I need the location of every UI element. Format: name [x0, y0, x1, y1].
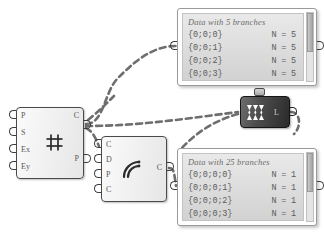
- nub-out-c[interactable]: [84, 120, 91, 129]
- panel-scrollbar-thumb[interactable]: [307, 13, 313, 52]
- panel-row: {0;0;0;1} N = 1: [188, 182, 298, 195]
- panel-five-branches[interactable]: Data with 5 branches {0;0;0} N = 5 {0;0;…: [177, 8, 317, 86]
- panel-scrollbar[interactable]: [306, 152, 314, 222]
- branch-count: N = 1: [271, 208, 298, 221]
- port-in-p2[interactable]: P: [106, 171, 110, 179]
- branch-path: {0;0;0;0}: [188, 169, 232, 182]
- panel-twentyfive-branches-title: Data with 25 branches: [188, 157, 298, 167]
- port-out-c-arc[interactable]: C: [157, 164, 162, 172]
- port-in-c1[interactable]: C: [106, 141, 111, 149]
- branch-path: {0;0;1}: [188, 42, 222, 55]
- port-out-c[interactable]: C: [74, 112, 79, 120]
- branch-count: N = 5: [271, 42, 298, 55]
- wire-c-to-top-panel: [86, 46, 176, 124]
- panel-scrollbar-thumb[interactable]: [307, 153, 313, 192]
- nub-out-p[interactable]: [84, 154, 91, 163]
- panel-row: {0;0;0} N = 5: [188, 29, 298, 42]
- component-surface-divide[interactable]: P S Ex Ey C P: [16, 107, 84, 179]
- branch-path: {0;0;0;3}: [188, 208, 232, 221]
- port-in-ex[interactable]: Ex: [21, 146, 30, 154]
- port-out-p[interactable]: P: [75, 155, 79, 163]
- port-in-d[interactable]: D: [106, 156, 112, 164]
- branch-count: N = 1: [271, 182, 298, 195]
- port-out-l[interactable]: L: [274, 109, 279, 117]
- branch-count: N = 1: [271, 169, 298, 182]
- nub-in-p[interactable]: [9, 110, 16, 119]
- panel-row: {0;0;2} N = 5: [188, 55, 298, 68]
- arc-curve-icon: [122, 159, 144, 179]
- panel-five-branches-title: Data with 5 branches: [188, 17, 298, 27]
- panel-twentyfive-in-nub[interactable]: [170, 181, 177, 190]
- branch-path: {0;0;0;2}: [188, 195, 232, 208]
- panel-row: {0;0;0;0} N = 1: [188, 169, 298, 182]
- nub-in-s[interactable]: [9, 127, 16, 136]
- panel-five-branches-body: Data with 5 branches {0;0;0} N = 5 {0;0;…: [182, 13, 304, 81]
- panel-twentyfive-branches[interactable]: Data with 25 branches {0;0;0;0} N = 1 {0…: [177, 148, 317, 226]
- branch-count: N = 5: [271, 55, 298, 68]
- nub-out-l[interactable]: [290, 107, 297, 116]
- port-in-c2[interactable]: C: [106, 186, 111, 194]
- flatten-icon: [246, 104, 266, 121]
- grasshopper-canvas[interactable]: P S Ex Ey C P C D P C C: [0, 0, 324, 235]
- panel-twentyfive-branches-body: Data with 25 branches {0;0;0;0} N = 1 {0…: [182, 153, 304, 221]
- nub-in-ey[interactable]: [9, 161, 16, 170]
- wire-c-to-flatten: [86, 112, 238, 126]
- wire-stub-a: [88, 96, 114, 120]
- branch-path: {0;0;3}: [188, 68, 222, 81]
- panel-row: {0;0;3} N = 5: [188, 68, 298, 81]
- branch-count: N = 5: [271, 29, 298, 42]
- panel-row: {0;0;0;2} N = 1: [188, 195, 298, 208]
- component-arc-fillet[interactable]: C D P C C: [101, 136, 167, 202]
- panel-row: {0;0;0;3} N = 1: [188, 208, 298, 221]
- branch-count: N = 5: [271, 68, 298, 81]
- component-flatten-tree[interactable]: L: [240, 96, 290, 128]
- panel-five-out-nub[interactable]: [317, 41, 324, 50]
- port-in-s[interactable]: S: [21, 129, 25, 137]
- nub-in-p2[interactable]: [94, 169, 101, 178]
- port-in-ey[interactable]: Ey: [21, 163, 30, 171]
- branch-path: {0;0;0}: [188, 29, 222, 42]
- panel-row: {0;0;1} N = 5: [188, 42, 298, 55]
- component-flatten-tab[interactable]: [254, 88, 265, 96]
- panel-twentyfive-out-nub[interactable]: [317, 181, 324, 190]
- wire-flatten-return: [180, 114, 238, 150]
- nub-in-c1[interactable]: [94, 139, 101, 148]
- grid-hash-icon: [46, 134, 63, 151]
- panel-five-in-nub[interactable]: [170, 41, 177, 50]
- port-in-p[interactable]: P: [21, 112, 25, 120]
- branch-path: {0;0;0;1}: [188, 182, 232, 195]
- nub-out-c-arc[interactable]: [167, 162, 174, 171]
- nub-in-d[interactable]: [94, 154, 101, 163]
- panel-scrollbar[interactable]: [306, 12, 314, 82]
- nub-in-c2[interactable]: [94, 184, 101, 193]
- nub-in-ex[interactable]: [9, 144, 16, 153]
- branch-path: {0;0;2}: [188, 55, 222, 68]
- branch-count: N = 1: [271, 195, 298, 208]
